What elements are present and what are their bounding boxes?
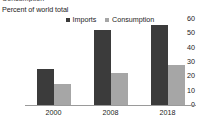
bar-groups [25, 19, 196, 105]
chart-figure: Consumption Percent of world total Impor… [0, 0, 198, 123]
x-axis-tick-label: 2018 [139, 108, 196, 117]
clipped-header-text: Consumption [2, 0, 122, 2]
bar-consumption-2018 [168, 65, 185, 105]
bar-group [25, 19, 82, 105]
x-axis-tick-label: 2008 [82, 108, 139, 117]
bar-consumption-2000 [54, 84, 71, 106]
y-axis-title: Percent of world total [2, 5, 68, 14]
bar-group [139, 19, 196, 105]
x-axis-tick-label: 2000 [25, 108, 82, 117]
x-axis-baseline [25, 105, 196, 106]
x-axis-labels: 200020082018 [25, 108, 196, 117]
bar-imports-2018 [151, 25, 168, 105]
bar-consumption-2008 [111, 73, 128, 105]
bar-group [82, 19, 139, 105]
bar-imports-2008 [94, 30, 111, 105]
bar-imports-2000 [37, 69, 54, 105]
